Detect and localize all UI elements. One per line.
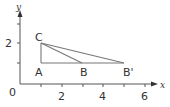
triangles	[41, 43, 124, 63]
x-tick-label-6: 6	[141, 90, 148, 103]
y-axis-label: y	[15, 2, 22, 12]
segment-CB-prime	[41, 43, 124, 63]
origin-label: 0	[9, 86, 16, 99]
x-axis-label: x	[160, 80, 165, 90]
x-axis-arrow-icon	[151, 82, 158, 87]
point-label-A: A	[35, 66, 43, 79]
segment-CB	[41, 43, 82, 63]
point-label-C: C	[35, 31, 43, 44]
coordinate-diagram: y x 0 2 4 6 2 C A B B'	[0, 0, 170, 107]
x-tick-label-4: 4	[99, 90, 106, 103]
x-tick-label-2: 2	[58, 90, 65, 103]
point-label-B: B	[80, 66, 88, 79]
y-tick-label-2: 2	[5, 37, 12, 50]
point-label-B-prime: B'	[123, 66, 134, 79]
